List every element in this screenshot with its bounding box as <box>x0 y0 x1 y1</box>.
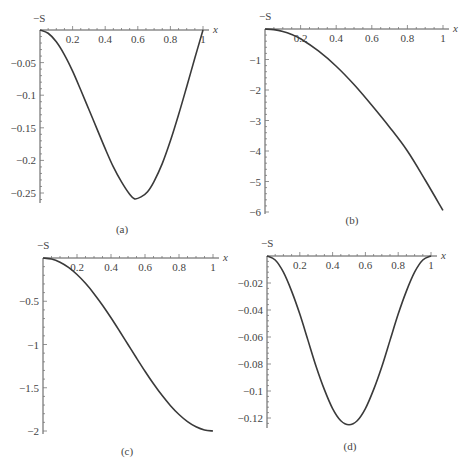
x-tick-label: 0.2 <box>293 259 307 271</box>
x-tick-label: 0.6 <box>359 259 373 271</box>
panel-d: 0.20.40.60.81x−0.02−0.04−0.06−0.08−0.1−0… <box>238 237 446 453</box>
y-tick-label: −4 <box>249 145 261 157</box>
y-tick-label: −0.04 <box>238 304 264 316</box>
y-tick-label: −0.08 <box>238 358 264 370</box>
y-tick-label: −2 <box>249 84 261 96</box>
data-curve <box>43 258 213 431</box>
y-tick-label: −0.15 <box>11 122 37 134</box>
x-tick-label: 0.4 <box>329 32 343 44</box>
x-tick-label: 0.8 <box>401 32 415 44</box>
y-tick-label: −0.12 <box>238 412 263 424</box>
data-curve <box>265 29 443 210</box>
panel-c: 0.20.40.60.81x−0.5−1−1.5−2−S(c) <box>19 239 228 458</box>
panel-caption: (a) <box>116 223 129 236</box>
panel-caption: (b) <box>346 214 359 227</box>
data-curve <box>40 30 203 199</box>
y-tick-label: −1.5 <box>19 382 39 394</box>
x-tick-label: 0.6 <box>365 32 379 44</box>
y-tick-label: −0.02 <box>238 277 263 289</box>
x-tick-label: 0.2 <box>66 33 80 45</box>
y-tick-label: −1 <box>27 339 39 351</box>
x-tick-label: 0.4 <box>104 261 118 273</box>
y-tick-label: −0.5 <box>19 295 39 307</box>
y-tick-label: −0.1 <box>243 385 263 397</box>
y-axis-label: −S <box>33 12 45 24</box>
x-tick-label: 0.6 <box>138 261 152 273</box>
x-axis-label: x <box>452 22 458 34</box>
y-axis-label: −S <box>259 10 271 22</box>
x-tick-label: 0.6 <box>131 33 145 45</box>
x-axis-label: x <box>222 251 228 263</box>
panel-caption: (c) <box>121 445 134 458</box>
panel-caption: (d) <box>344 440 357 453</box>
y-axis-label: −S <box>37 239 49 251</box>
x-tick-label: 1 <box>440 32 446 44</box>
y-tick-label: −0.05 <box>11 57 37 69</box>
x-tick-label: 0.8 <box>391 259 405 271</box>
y-tick-label: −0.1 <box>16 89 36 101</box>
x-axis-label: x <box>440 249 446 261</box>
figure-four-panel-plots: 0.20.40.60.81x−0.05−0.1−0.15−0.2−0.25−S(… <box>0 0 464 465</box>
y-tick-label: −1 <box>249 54 261 66</box>
panel-a: 0.20.40.60.81x−0.05−0.1−0.15−0.2−0.25−S(… <box>11 12 218 236</box>
y-tick-label: −2 <box>27 425 39 437</box>
y-tick-label: −5 <box>249 176 261 188</box>
x-tick-label: 0.4 <box>326 259 340 271</box>
x-axis-label: x <box>212 23 218 35</box>
y-tick-label: −0.06 <box>238 331 264 343</box>
x-tick-label: 0.4 <box>98 33 112 45</box>
x-tick-label: 1 <box>428 259 434 271</box>
data-curve <box>267 256 431 425</box>
y-tick-label: −6 <box>249 206 261 218</box>
y-tick-label: −3 <box>249 115 261 127</box>
x-tick-label: 1 <box>210 261 216 273</box>
x-tick-label: 0.8 <box>164 33 178 45</box>
y-axis-label: −S <box>261 237 273 249</box>
y-tick-label: −0.2 <box>16 154 36 166</box>
y-tick-label: −0.25 <box>11 187 37 199</box>
panel-b: 0.20.40.60.81x−1−2−3−4−5−6−S(b) <box>249 10 458 227</box>
x-tick-label: 0.8 <box>172 261 186 273</box>
